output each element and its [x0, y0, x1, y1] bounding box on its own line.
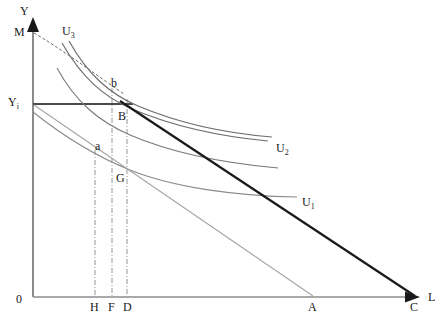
point-label-b: b — [111, 77, 117, 89]
x-tick-A: A — [308, 301, 317, 313]
curve-label-U3-base: U — [62, 24, 71, 38]
curve-label-U2-base: U — [276, 141, 285, 155]
y-tick-Yi: Yi — [8, 96, 19, 111]
curve-label-U2: U2 — [276, 142, 289, 157]
origin-label: 0 — [16, 293, 22, 305]
x-tick-D: D — [123, 301, 132, 313]
x-tick-F: F — [108, 301, 115, 313]
curve-label-U3-subscript: 3 — [71, 31, 75, 40]
x-tick-C: C — [410, 301, 418, 313]
plot-canvas — [0, 0, 445, 324]
curve-label-U1-base: U — [302, 195, 311, 209]
indifference-curve-U2 — [57, 68, 278, 168]
indifference-curve-figure: Y L 0 M Yi H F D A C U3 U2 U1 b B a G — [0, 0, 445, 324]
indifference-curve-U3 — [62, 43, 268, 141]
curve-label-U1: U1 — [302, 196, 315, 211]
budget-line-thick-to-C — [120, 101, 415, 296]
x-tick-H: H — [90, 301, 99, 313]
x-axis-label: L — [428, 291, 435, 303]
indifference-curve-U1 — [33, 112, 297, 197]
y-axis-arrowhead — [27, 17, 39, 32]
curve-label-U2-subscript: 2 — [285, 148, 289, 157]
y-tick-M: M — [14, 26, 25, 38]
point-label-a: a — [95, 140, 100, 152]
curve-label-U3: U3 — [62, 25, 75, 40]
curve-label-U1-subscript: 1 — [311, 202, 315, 211]
y-tick-Yi-subscript: i — [17, 102, 19, 111]
point-label-B: B — [118, 110, 126, 122]
y-tick-Yi-base: Y — [8, 95, 17, 109]
point-label-G: G — [116, 172, 125, 184]
y-axis-label: Y — [20, 5, 29, 17]
